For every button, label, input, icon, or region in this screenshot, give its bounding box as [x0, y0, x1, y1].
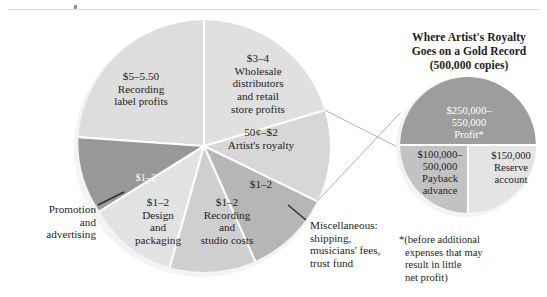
- slice-label-payback-advance: $100,000– 500,000 Payback advance: [404, 149, 476, 197]
- slice-label-recording-and-studio-costs: $1–2 Recording and studio costs: [186, 196, 268, 247]
- small-pie-footnote: *(before additional expenses that may re…: [399, 234, 545, 285]
- small-pie-title: Where Artist's Royalty Goes on a Gold Re…: [396, 31, 542, 73]
- callout-promotion-and-advertising: Promotion and advertising: [4, 203, 96, 241]
- slice-label-recording-label-profits: $5–5.50 Recording label profits: [82, 70, 200, 108]
- figure-root: $3–4 Wholesale distributors and retail s…: [0, 0, 547, 297]
- slice-label-artists-royalty: 50¢–$2 Artist's royalty: [203, 126, 319, 151]
- slice-label-design-and-packaging: $1–2 Design and packaging: [125, 196, 191, 247]
- slice-label-miscellaneous-value: $1–2: [237, 178, 285, 191]
- slice-label-wholesale-distributors: $3–4 Wholesale distributors and retail s…: [206, 52, 310, 115]
- slice-label-profit: $250,000– 550,000 Profit*: [414, 105, 524, 141]
- slice-label-promotion-value: $1–2: [122, 172, 170, 184]
- slice-label-reserve-account: $150,000 Reserve account: [478, 150, 544, 186]
